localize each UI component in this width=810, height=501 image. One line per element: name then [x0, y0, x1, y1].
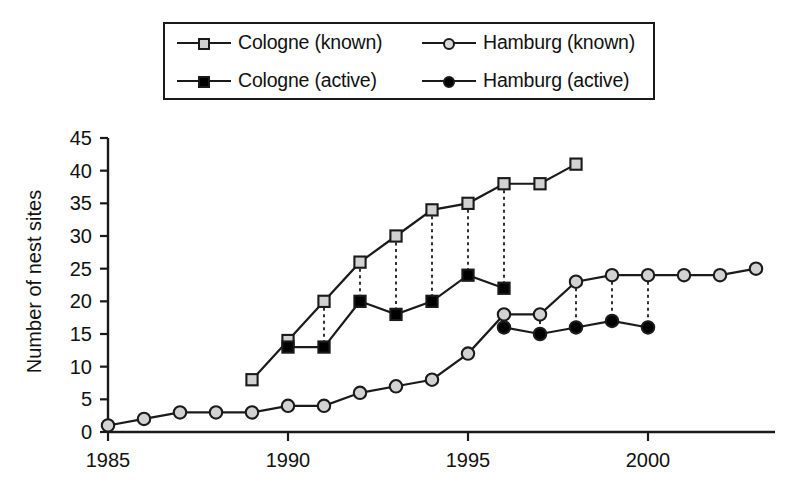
data-point-marker	[102, 419, 114, 431]
data-point-marker	[498, 178, 509, 189]
data-point-marker	[570, 321, 582, 333]
data-point-marker	[246, 374, 257, 385]
data-point-marker	[318, 400, 330, 412]
data-point-marker	[354, 296, 365, 307]
data-point-marker	[642, 269, 654, 281]
series-line	[108, 269, 756, 426]
data-point-marker	[426, 374, 438, 386]
data-point-marker	[750, 262, 762, 274]
data-point-marker	[426, 204, 437, 215]
plot-area: Number of nest sites 051015202530354045 …	[0, 110, 810, 501]
legend-item-hamburg-active: Hamburg (active)	[410, 62, 655, 100]
circle-gray-icon	[422, 34, 476, 52]
data-point-marker	[354, 257, 365, 268]
data-point-marker	[426, 296, 437, 307]
data-point-marker	[210, 406, 222, 418]
legend-label: Cologne (known)	[238, 33, 382, 53]
circle-black-icon	[422, 72, 476, 90]
data-point-marker	[282, 341, 293, 352]
legend-label: Hamburg (active)	[483, 71, 629, 91]
legend-item-cologne-known: Cologne (known)	[165, 24, 410, 62]
data-point-marker	[498, 308, 510, 320]
data-point-marker	[498, 283, 509, 294]
data-point-marker	[390, 230, 401, 241]
square-gray-icon	[177, 34, 231, 52]
legend-label: Cologne (active)	[238, 71, 377, 91]
square-black-icon	[177, 72, 231, 90]
data-point-marker	[462, 347, 474, 359]
data-point-marker	[534, 308, 546, 320]
chart-legend: Cologne (known) Hamburg (known) Cologne …	[163, 22, 655, 100]
data-point-marker	[246, 406, 258, 418]
data-point-marker	[390, 309, 401, 320]
chart-figure: Cologne (known) Hamburg (known) Cologne …	[0, 0, 810, 501]
data-point-marker	[462, 198, 473, 209]
data-point-marker	[606, 315, 618, 327]
data-point-marker	[570, 276, 582, 288]
legend-item-cologne-active: Cologne (active)	[165, 62, 410, 100]
data-point-marker	[570, 159, 581, 170]
data-point-marker	[606, 269, 618, 281]
data-point-marker	[462, 270, 473, 281]
chart-canvas	[0, 110, 810, 501]
data-point-marker	[174, 406, 186, 418]
data-point-marker	[498, 321, 510, 333]
data-point-marker	[282, 400, 294, 412]
data-point-marker	[138, 413, 150, 425]
data-point-marker	[534, 178, 545, 189]
data-point-marker	[642, 321, 654, 333]
data-point-marker	[534, 328, 546, 340]
data-point-marker	[714, 269, 726, 281]
data-point-marker	[390, 380, 402, 392]
data-point-marker	[678, 269, 690, 281]
legend-label: Hamburg (known)	[483, 33, 635, 53]
data-point-marker	[318, 296, 329, 307]
legend-item-hamburg-known: Hamburg (known)	[410, 24, 655, 62]
data-point-marker	[354, 387, 366, 399]
data-point-marker	[318, 341, 329, 352]
